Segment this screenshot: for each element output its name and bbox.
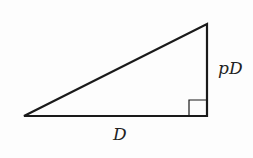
base-label: D xyxy=(113,126,127,143)
height-label: pD xyxy=(218,60,243,77)
right-triangle xyxy=(24,24,207,116)
right-angle-marker xyxy=(189,100,207,116)
diagram-canvas: pD D xyxy=(0,0,253,158)
